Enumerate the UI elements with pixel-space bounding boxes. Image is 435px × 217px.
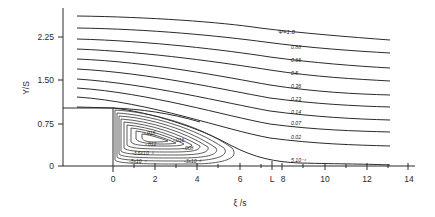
y-tick-label: 2.25: [37, 32, 54, 42]
streamline-0.88: [77, 28, 390, 53]
streamline-0.66: [77, 39, 390, 68]
x-tick-label-L: L: [270, 174, 275, 184]
eddy-label: -.016: [173, 137, 185, 143]
backward-facing-step: [63, 108, 113, 166]
psi-label: 5.10⁻⁴: [291, 157, 306, 163]
eddy-label: -3.6x10⁻³: [132, 150, 154, 156]
psi-label: 0.36: [291, 83, 301, 89]
y-tick-label: 1.50: [37, 75, 54, 85]
psi-label: 0.14: [291, 109, 301, 115]
eddy-label: -.012: [145, 141, 157, 147]
x-tick-label: 10: [320, 174, 330, 184]
eddy-label: -.008: [182, 145, 194, 151]
streamline-chart: 0 0.75 1.50 2.25 0 2 4 6 L 8 10 12 14 Y/…: [0, 0, 435, 217]
psi-label: 0.88: [291, 44, 301, 50]
x-tick-label: 6: [238, 174, 243, 184]
y-tick-labels: 0 0.75 1.50 2.25: [37, 32, 54, 171]
y-tick-label: 0: [49, 161, 54, 171]
x-tick-label: 14: [404, 174, 414, 184]
psi-label: Ψ=1.0: [278, 29, 295, 35]
x-tick-labels: 0 2 4 6 L 8 10 12 14: [111, 174, 414, 184]
psi-labels: Ψ=1.0 0.88 0.66 0.5 0.36 0.23 0.14 0.07 …: [278, 29, 306, 163]
x-tick-label: 0: [111, 174, 116, 184]
psi-label: 0.07: [291, 120, 302, 126]
streamline-1.0: [77, 16, 390, 40]
x-tick-label: 2: [153, 174, 158, 184]
x-tick-label: 12: [362, 174, 372, 184]
eddy-label: -3x10⁻³: [184, 158, 202, 164]
psi-label: 0.66: [291, 57, 301, 63]
eddy-labels: -.018 -.016 -.012 -.008 -3.6x10⁻³ -3x10⁻…: [129, 130, 202, 164]
axes: [58, 8, 415, 172]
y-axis-label: Y/S: [21, 81, 31, 95]
psi-label: 0.02: [291, 134, 301, 140]
x-axis-label: ξ /s: [234, 198, 247, 208]
streamline-0.23: [77, 69, 390, 107]
eddy-label: -5x10⁻⁴: [129, 158, 147, 164]
x-tick-label: 4: [195, 174, 200, 184]
eddy-label: -.018: [144, 130, 156, 136]
psi-label: 0.5: [291, 70, 298, 76]
x-tick-label: 8: [281, 174, 286, 184]
y-tick-label: 0.75: [37, 119, 54, 129]
psi-label: 0.23: [291, 96, 301, 102]
